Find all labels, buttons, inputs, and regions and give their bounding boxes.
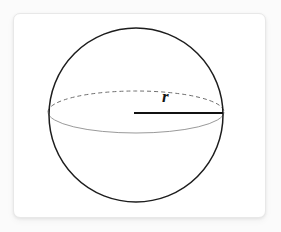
- equator-back-arc-dashed: [48, 91, 224, 112]
- sphere-figure: r: [0, 0, 281, 232]
- sphere-outline-circle: [49, 28, 223, 202]
- diagram-canvas: r: [0, 0, 281, 232]
- radius-label: r: [162, 88, 169, 105]
- equator-front-arc-solid: [48, 112, 224, 133]
- sphere-svg: [0, 0, 281, 232]
